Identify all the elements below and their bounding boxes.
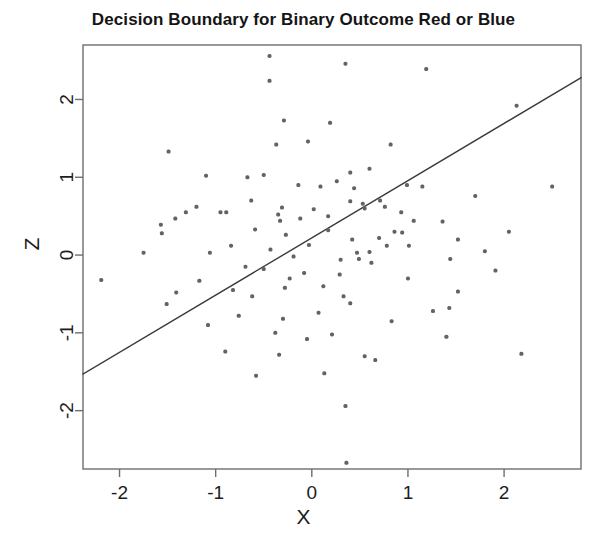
- axis-ticks: -2-1012-2-1012: [57, 94, 510, 503]
- scatter-point: [218, 210, 222, 214]
- scatter-point: [283, 286, 287, 290]
- scatter-point: [348, 301, 352, 305]
- scatter-point: [322, 371, 326, 375]
- scatter-plot-figure: Decision Boundary for Binary Outcome Red…: [0, 0, 607, 542]
- scatter-point: [507, 230, 511, 234]
- scatter-point: [383, 205, 387, 209]
- scatter-point: [243, 265, 247, 269]
- scatter-point: [406, 276, 410, 280]
- scatter-point: [550, 185, 554, 189]
- scatter-point: [204, 174, 208, 178]
- scatter-point: [343, 404, 347, 408]
- scatter-point: [277, 353, 281, 357]
- x-tick-label: 2: [499, 482, 510, 503]
- scatter-point: [298, 216, 302, 220]
- scatter-point: [447, 306, 451, 310]
- scatter-point: [363, 206, 367, 210]
- scatter-point: [282, 118, 286, 122]
- scatter-point: [99, 278, 103, 282]
- scatter-point: [456, 290, 460, 294]
- scatter-point: [326, 228, 330, 232]
- scatter-point: [493, 269, 497, 273]
- scatter-point: [245, 175, 249, 179]
- scatter-point: [206, 323, 210, 327]
- scatter-point: [456, 237, 460, 241]
- scatter-point: [335, 179, 339, 183]
- data-points: [99, 54, 554, 465]
- scatter-point: [305, 337, 309, 341]
- scatter-point: [355, 251, 359, 255]
- scatter-point: [237, 314, 241, 318]
- x-tick-label: 1: [403, 482, 414, 503]
- scatter-point: [321, 284, 325, 288]
- scatter-point: [184, 210, 188, 214]
- scatter-point: [253, 227, 257, 231]
- scatter-point: [306, 139, 310, 143]
- scatter-point: [344, 461, 348, 465]
- scatter-point: [160, 231, 164, 235]
- scatter-point: [165, 302, 169, 306]
- scatter-point: [159, 223, 163, 227]
- scatter-point: [296, 183, 300, 187]
- x-tick-label: 0: [307, 482, 318, 503]
- x-tick-label: -1: [207, 482, 224, 503]
- scatter-point: [339, 258, 343, 262]
- scatter-point: [330, 332, 334, 336]
- scatter-point: [350, 237, 354, 241]
- scatter-point: [276, 213, 280, 217]
- scatter-point: [197, 279, 201, 283]
- scatter-point: [367, 250, 371, 254]
- scatter-point: [448, 257, 452, 261]
- scatter-point: [223, 350, 227, 354]
- scatter-point: [194, 205, 198, 209]
- scatter-point: [307, 243, 311, 247]
- y-tick-label: 0: [57, 250, 78, 261]
- scatter-point: [302, 271, 306, 275]
- scatter-point: [363, 354, 367, 358]
- scatter-point: [338, 273, 342, 277]
- scatter-point: [342, 294, 346, 298]
- scatter-point: [167, 150, 171, 154]
- scatter-point: [268, 79, 272, 83]
- scatter-point: [373, 358, 377, 362]
- y-tick-label: 1: [57, 172, 78, 183]
- scatter-point: [424, 67, 428, 71]
- y-tick-label: -2: [57, 402, 78, 419]
- scatter-point: [229, 244, 233, 248]
- scatter-point: [343, 62, 347, 66]
- scatter-point: [318, 185, 322, 189]
- plot-frame: [83, 45, 581, 469]
- scatter-point: [328, 121, 332, 125]
- scatter-point: [268, 54, 272, 58]
- scatter-point: [385, 244, 389, 248]
- scatter-point: [357, 257, 361, 261]
- scatter-point: [224, 210, 228, 214]
- scatter-point: [249, 199, 253, 203]
- scatter-point: [377, 236, 381, 240]
- x-axis-title: X: [0, 505, 607, 529]
- scatter-point: [312, 207, 316, 211]
- scatter-point: [444, 335, 448, 339]
- scatter-point: [280, 206, 284, 210]
- scatter-point: [367, 167, 371, 171]
- scatter-point: [231, 288, 235, 292]
- scatter-point: [389, 143, 393, 147]
- scatter-point: [390, 319, 394, 323]
- scatter-point: [473, 194, 477, 198]
- scatter-point: [420, 185, 424, 189]
- scatter-point: [288, 276, 292, 280]
- scatter-point: [369, 261, 373, 265]
- scatter-point: [378, 199, 382, 203]
- scatter-point: [405, 183, 409, 187]
- scatter-point: [284, 233, 288, 237]
- scatter-point: [348, 199, 352, 203]
- scatter-point: [250, 294, 254, 298]
- scatter-point: [407, 244, 411, 248]
- scatter-point: [361, 202, 365, 206]
- scatter-point: [412, 219, 416, 223]
- scatter-point: [392, 230, 396, 234]
- scatter-point: [352, 186, 356, 190]
- scatter-point: [292, 255, 296, 259]
- scatter-point: [431, 309, 435, 313]
- scatter-point: [317, 311, 321, 315]
